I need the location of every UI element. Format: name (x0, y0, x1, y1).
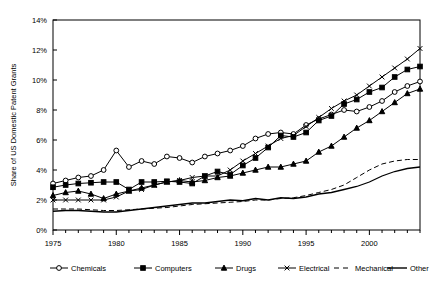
x-axis-tick-label: 2000 (361, 239, 378, 248)
data-point-marker (240, 170, 245, 175)
series-line-chemicals (53, 82, 420, 184)
data-point-marker (418, 79, 423, 84)
data-point-marker (215, 151, 220, 156)
data-point-marker (379, 109, 384, 114)
data-point-marker (354, 125, 359, 130)
data-point-marker (141, 266, 146, 271)
data-point-marker (63, 183, 68, 188)
data-point-marker (76, 175, 81, 180)
data-point-marker (291, 161, 296, 166)
data-point-marker (367, 105, 372, 110)
x-axis-tick-label: 1990 (234, 239, 251, 248)
data-point-marker (253, 167, 258, 172)
data-point-marker (367, 118, 372, 123)
data-point-marker (152, 162, 157, 167)
data-point-marker (101, 180, 106, 185)
data-point-marker (51, 185, 56, 190)
x-axis-tick-label: 1975 (45, 239, 62, 248)
data-point-marker (164, 154, 169, 159)
series-line-other (53, 167, 420, 212)
y-axis-tick-label: 12% (32, 46, 47, 55)
data-point-marker (253, 156, 258, 161)
y-axis-title: Share of US Domestic Patent Grants (9, 63, 18, 186)
data-point-marker (50, 193, 55, 198)
data-point-marker (380, 99, 385, 104)
data-point-marker (57, 266, 62, 271)
data-point-marker (89, 180, 94, 185)
data-point-marker (392, 75, 397, 80)
data-point-marker (380, 85, 385, 90)
data-point-marker (329, 114, 334, 119)
legend-label-drugs: Drugs (236, 264, 256, 273)
data-point-marker (265, 164, 270, 169)
y-axis-tick-label: 8% (36, 106, 47, 115)
data-point-marker (392, 90, 397, 95)
data-point-marker (202, 154, 207, 159)
data-point-marker (228, 148, 233, 153)
data-point-marker (417, 86, 422, 91)
data-point-marker (304, 130, 309, 135)
series-line-mechanical (53, 160, 420, 211)
data-point-marker (139, 180, 144, 185)
data-point-marker (177, 156, 182, 161)
legend-label-other: Other (410, 264, 429, 273)
data-point-marker (76, 181, 81, 186)
data-point-marker (354, 109, 359, 114)
data-point-marker (114, 148, 119, 153)
data-point-marker (418, 64, 423, 69)
data-point-marker (392, 100, 397, 105)
x-axis-tick-label: 1980 (108, 239, 125, 248)
data-point-marker (405, 91, 410, 96)
data-point-marker (139, 159, 144, 164)
series-line-electrical (53, 49, 420, 201)
x-axis-tick-label: 1995 (298, 239, 315, 248)
data-point-marker (114, 180, 119, 185)
patent-share-line-chart: 0%2%4%6%8%10%12%14%197519801985199019952… (0, 0, 433, 285)
data-point-marker (341, 134, 346, 139)
chart-canvas: 0%2%4%6%8%10%12%14%197519801985199019952… (0, 0, 433, 285)
data-point-marker (342, 108, 347, 113)
data-point-marker (127, 165, 132, 170)
legend-label-computers: Computers (155, 264, 192, 273)
data-point-marker (253, 136, 258, 141)
data-point-marker (190, 160, 195, 165)
data-point-marker (316, 149, 321, 154)
y-axis-tick-label: 10% (32, 76, 47, 85)
data-point-marker (405, 84, 410, 89)
data-point-marker (63, 190, 68, 195)
data-point-marker (303, 158, 308, 163)
y-axis-tick-label: 0% (36, 226, 47, 235)
data-point-marker (354, 97, 359, 102)
data-point-marker (405, 67, 410, 72)
series-line-computers (53, 67, 420, 190)
x-axis-tick-label: 1985 (171, 239, 188, 248)
data-point-marker (89, 174, 94, 179)
y-axis-tick-label: 2% (36, 196, 47, 205)
data-point-marker (266, 132, 271, 137)
y-axis-tick-label: 4% (36, 166, 47, 175)
data-point-marker (241, 163, 246, 168)
legend-label-chemicals: Chemicals (71, 264, 106, 273)
data-point-marker (63, 178, 68, 183)
data-point-marker (367, 90, 372, 95)
data-point-marker (240, 144, 245, 149)
data-point-marker (215, 169, 220, 174)
data-point-marker (76, 188, 81, 193)
y-axis-tick-label: 6% (36, 136, 47, 145)
data-point-marker (278, 164, 283, 169)
data-point-marker (221, 265, 226, 270)
legend-label-electrical: Electrical (299, 264, 330, 273)
data-point-marker (101, 168, 106, 173)
data-point-marker (329, 143, 334, 148)
data-point-marker (88, 191, 93, 196)
y-axis-tick-label: 14% (32, 16, 47, 25)
